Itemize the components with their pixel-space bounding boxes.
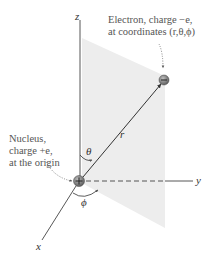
nucleus-label-line3: at the origin bbox=[9, 157, 60, 169]
y-axis-label: y bbox=[196, 174, 201, 186]
x-axis-label: x bbox=[36, 240, 41, 252]
nucleus-label: Nucleus, charge +e, at the origin bbox=[9, 133, 60, 169]
x-axis bbox=[42, 186, 76, 240]
phi-label: ϕ bbox=[81, 196, 87, 208]
electron-pointer bbox=[159, 44, 163, 68]
electron-label-line1: Electron, charge −e, bbox=[108, 14, 195, 26]
nucleus-label-line1: Nucleus, bbox=[9, 133, 60, 145]
r-label: r bbox=[120, 128, 124, 140]
z-axis-label: z bbox=[75, 10, 79, 22]
electron-label: Electron, charge −e, at coordinates (r,θ… bbox=[108, 14, 195, 38]
spherical-coordinates-diagram bbox=[0, 0, 208, 256]
theta-label: θ bbox=[86, 145, 91, 157]
nucleus-label-line2: charge +e, bbox=[9, 145, 60, 157]
electron-label-line2: at coordinates (r,θ,ϕ) bbox=[108, 26, 195, 38]
